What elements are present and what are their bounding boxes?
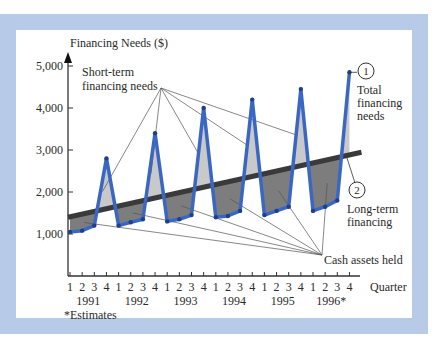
y-tick-label: 5,000 [36, 59, 63, 73]
data-point [214, 215, 218, 219]
quarter-label: 4 [346, 280, 352, 294]
year-label: 1996* [316, 294, 346, 308]
data-point [153, 131, 157, 135]
data-point [262, 213, 266, 217]
quarter-label: 3 [334, 280, 340, 294]
y-tick-label: 4,000 [36, 101, 63, 115]
short-term-leader-line [161, 88, 200, 156]
long-term-label-line1: Long-term [347, 202, 399, 216]
data-point [80, 228, 84, 232]
cash-leader-line [181, 206, 322, 255]
data-point [201, 106, 205, 110]
data-point [68, 230, 72, 234]
quarter-label: 2 [128, 280, 134, 294]
quarter-label: 1 [116, 280, 122, 294]
quarter-label: 4 [249, 280, 255, 294]
data-point [226, 214, 230, 218]
data-point [238, 209, 242, 213]
data-point [92, 223, 96, 227]
data-point [189, 213, 193, 217]
quarter-label: 2 [176, 280, 182, 294]
x-axis-title: Quarter [370, 280, 407, 294]
quarter-label: 1 [310, 280, 316, 294]
cash-leader-line [133, 213, 322, 255]
data-point [177, 217, 181, 221]
quarter-label: 3 [189, 280, 195, 294]
total-label-line1: Total [357, 83, 382, 97]
y-tick-label: 3,000 [36, 143, 63, 157]
quarter-label: 4 [152, 280, 158, 294]
year-label: 1993 [173, 294, 197, 308]
y-tick-label: 1,000 [36, 227, 63, 241]
quarter-label: 1 [67, 280, 73, 294]
quarter-label: 3 [91, 280, 97, 294]
quarter-label: 2 [79, 280, 85, 294]
financing-chart: 1,0002,0003,0004,0005,000Financing Needs… [0, 0, 446, 351]
year-label: 1992 [125, 294, 149, 308]
marker-2-leader [347, 158, 355, 183]
data-point [116, 223, 120, 227]
marker-2-number: 2 [354, 184, 360, 196]
year-label: 1994 [222, 294, 246, 308]
quarter-label: 2 [225, 280, 231, 294]
data-point [311, 209, 315, 213]
data-point [104, 156, 108, 160]
data-point [129, 220, 133, 224]
quarter-label: 1 [261, 280, 267, 294]
short-term-leader-line [161, 88, 297, 135]
quarter-label: 2 [274, 280, 280, 294]
cash-assets-label: Cash assets held [324, 253, 403, 267]
quarter-label: 1 [164, 280, 170, 294]
total-label-line2: financing [357, 96, 402, 110]
quarter-label: 3 [237, 280, 243, 294]
quarter-label: 3 [286, 280, 292, 294]
quarter-label: 1 [213, 280, 219, 294]
total-label-line3: needs [357, 109, 385, 123]
y-axis-title: Financing Needs ($) [70, 36, 168, 50]
quarter-label: 4 [103, 280, 109, 294]
quarter-label: 3 [140, 280, 146, 294]
year-label: 1991 [76, 294, 100, 308]
data-point [287, 205, 291, 209]
footnote: *Estimates [64, 308, 117, 322]
data-point [141, 217, 145, 221]
marker-1-number: 1 [363, 65, 369, 77]
short-term-label-line1: Short-term [82, 65, 135, 79]
data-point [323, 205, 327, 209]
data-point [299, 87, 303, 91]
y-tick-label: 2,000 [36, 185, 63, 199]
quarter-label: 4 [298, 280, 304, 294]
quarter-label: 2 [322, 280, 328, 294]
data-point [274, 209, 278, 213]
long-term-label-line2: financing [347, 215, 392, 229]
quarter-label: 4 [201, 280, 207, 294]
data-point [165, 219, 169, 223]
short-term-label-line2: financing needs [82, 79, 158, 93]
data-point [250, 97, 254, 101]
year-label: 1995 [271, 294, 295, 308]
y-axis-arrow-icon [64, 52, 72, 63]
data-point [335, 198, 339, 202]
